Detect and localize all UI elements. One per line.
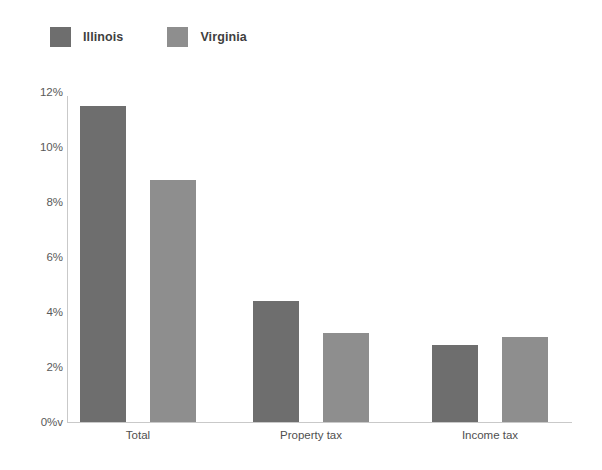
- x-tick-label: Income tax: [462, 429, 518, 441]
- y-tick-label: 4%: [11, 306, 63, 318]
- bar-illinois-total: [80, 106, 126, 422]
- y-tick-label: 10%: [11, 141, 63, 153]
- bar-virginia-total: [150, 180, 196, 422]
- y-tick-label: 6%: [11, 251, 63, 263]
- bar-virginia-income-tax: [502, 337, 548, 422]
- y-tick-label: 12%: [11, 86, 63, 98]
- y-tick-label: 2%: [11, 361, 63, 373]
- bar-illinois-property-tax: [253, 301, 299, 422]
- bar-illinois-income-tax: [432, 345, 478, 422]
- y-tick-label: 8%: [11, 196, 63, 208]
- bar-chart: 12%10%8%6%4%2%0%v TotalProperty taxIncom…: [0, 0, 602, 470]
- x-tick-label: Total: [126, 429, 150, 441]
- y-axis-line: [67, 96, 68, 423]
- y-axis-tick-labels: 12%10%8%6%4%2%0%v: [8, 0, 63, 470]
- bar-virginia-property-tax: [323, 333, 369, 422]
- y-tick-label: 0%v: [11, 416, 63, 428]
- x-axis-line: [67, 422, 572, 423]
- x-tick-label: Property tax: [280, 429, 342, 441]
